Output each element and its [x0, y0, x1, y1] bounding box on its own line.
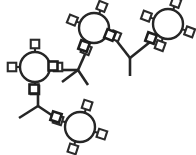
substituent-node-ring-bottom-node-e: [97, 129, 108, 140]
substituent-node-ring-top-right-node-s: [155, 40, 166, 51]
substituent-node-ring-top-center-node-n: [96, 1, 107, 12]
link-node-link-left-e: [49, 62, 58, 71]
substituent-node-ring-bottom-node-s: [68, 144, 79, 155]
substituent-node-ring-bottom-node-n: [82, 100, 93, 111]
substituent-node-ring-left-node-w: [8, 63, 17, 72]
substituent-node-ring-left-node-n: [31, 40, 40, 49]
ring-circle-ring-left: [20, 52, 50, 82]
link-node-link-right-w: [145, 32, 157, 44]
link-node-link-left-s: [30, 85, 39, 94]
ring-circle-ring-bottom: [65, 112, 95, 142]
molecular-structure-diagram: [0, 0, 196, 155]
link-node-link-center-sw: [78, 40, 90, 52]
structure-canvas: [0, 0, 196, 155]
link-node-link-bottom-w: [50, 111, 61, 122]
substituent-node-ring-top-right-node-e: [184, 26, 195, 37]
substituent-node-ring-top-right-node-w: [141, 11, 152, 22]
substituent-node-ring-top-center-node-w: [67, 15, 78, 26]
link-node-link-center-se: [104, 29, 116, 41]
